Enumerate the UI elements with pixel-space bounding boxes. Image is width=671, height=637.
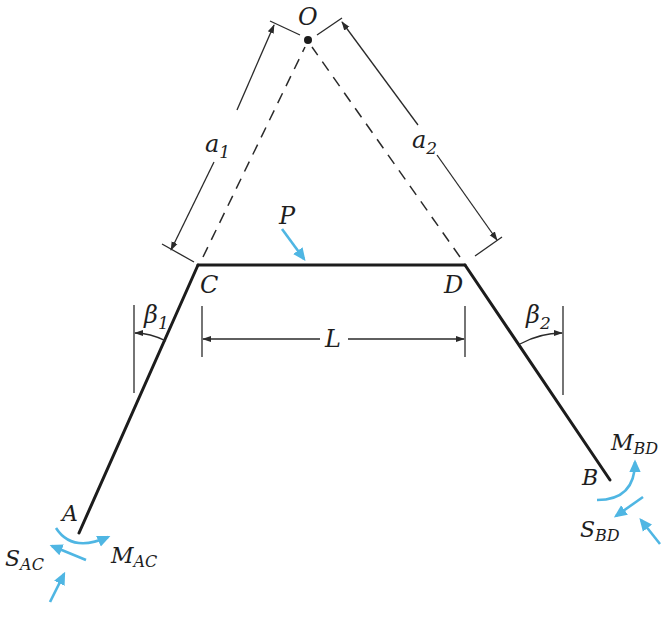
label-l: L: [324, 325, 341, 353]
label-o: O: [298, 3, 318, 31]
load-p-arrow: [282, 229, 304, 259]
label-beta2: β2: [525, 301, 551, 333]
label-beta1: β1: [143, 301, 169, 333]
label-a1: a1: [205, 130, 230, 162]
label-m-bd: MBD: [610, 430, 658, 458]
moment-mac-arrow: [56, 528, 108, 543]
label-b: B: [581, 465, 598, 490]
extension-line-do: [312, 47, 460, 257]
label-s-ac: SAC: [5, 546, 44, 574]
label-a: A: [60, 501, 78, 526]
label-s-bd: SBD: [580, 517, 620, 545]
dimension-a2: [317, 18, 502, 256]
label-c: C: [200, 271, 218, 299]
member-db: [465, 265, 610, 480]
label-p: P: [278, 202, 296, 230]
label-a2: a2: [412, 126, 437, 158]
point-o: [304, 36, 312, 44]
shear-sac-arrow: [52, 546, 86, 560]
label-d: D: [443, 271, 463, 299]
member-ac: [79, 265, 198, 533]
frame-diagram: a1 a2 O P C D L β1 β2 A: [0, 0, 671, 637]
label-m-ac: MAC: [110, 543, 157, 571]
axial-a-arrow: [50, 574, 64, 602]
axial-b-arrow: [641, 520, 660, 544]
shear-sbd-arrow: [616, 497, 643, 516]
